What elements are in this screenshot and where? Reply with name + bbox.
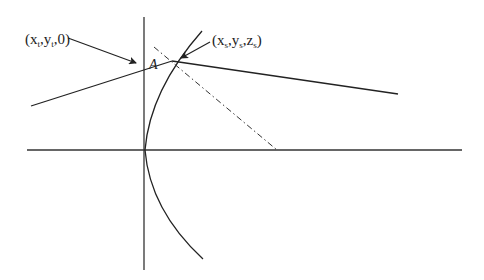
angle-label: A [148,57,158,72]
diagram-canvas: (xt,yt,0) (xs,ys,zs) A [0,0,484,280]
source-point-label: (xs,ys,zs) [212,32,262,50]
target-pointer-arrow [68,38,136,63]
source-pointer-arrow [181,42,210,58]
normal-dashdot-line [154,47,277,150]
target-point-label: (xt,yt,0) [25,31,70,49]
reflected-ray [172,61,398,94]
